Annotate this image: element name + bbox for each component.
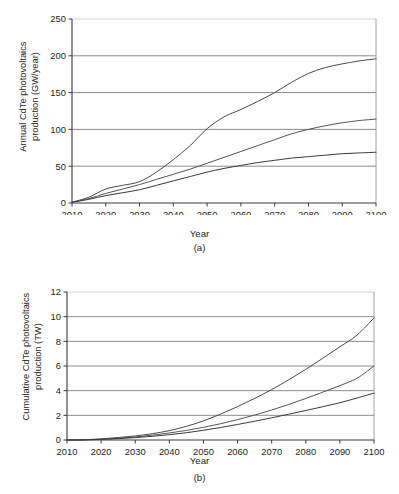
svg-text:2090: 2090 bbox=[332, 209, 353, 216]
svg-text:2060: 2060 bbox=[230, 209, 251, 216]
svg-text:2020: 2020 bbox=[95, 209, 116, 216]
svg-text:2030: 2030 bbox=[129, 209, 150, 216]
series-line bbox=[72, 152, 376, 202]
svg-text:0: 0 bbox=[56, 434, 61, 445]
svg-text:2100: 2100 bbox=[366, 209, 387, 216]
panel-b-plot: 0246810122010202020302040205020602070208… bbox=[0, 265, 399, 460]
svg-text:200: 200 bbox=[50, 50, 66, 61]
series-line bbox=[72, 119, 376, 202]
series-line bbox=[72, 59, 376, 203]
svg-text:100: 100 bbox=[50, 124, 66, 135]
svg-text:50: 50 bbox=[56, 161, 66, 172]
panel-b-caption: (b) bbox=[0, 472, 399, 483]
svg-text:2010: 2010 bbox=[62, 209, 83, 216]
svg-text:0: 0 bbox=[61, 197, 66, 208]
svg-text:12: 12 bbox=[51, 286, 61, 297]
series-line bbox=[67, 393, 374, 440]
panel-a-x-axis-label: Year bbox=[0, 228, 399, 239]
panel-a: Annual CdTe photovoltaics production (GW… bbox=[0, 0, 399, 250]
panel-b: Cumulative CdTe photovoltaics production… bbox=[0, 250, 399, 494]
svg-text:250: 250 bbox=[50, 13, 66, 24]
svg-text:2: 2 bbox=[56, 410, 61, 421]
panel-b-x-axis-label: Year bbox=[0, 455, 399, 466]
svg-text:10: 10 bbox=[51, 311, 61, 322]
svg-text:4: 4 bbox=[56, 385, 61, 396]
svg-text:2050: 2050 bbox=[197, 209, 218, 216]
series-line bbox=[67, 318, 374, 440]
svg-text:2080: 2080 bbox=[298, 209, 319, 216]
svg-text:2070: 2070 bbox=[264, 209, 285, 216]
svg-text:8: 8 bbox=[56, 336, 61, 347]
figure-two-panel-cdte-production: Annual CdTe photovoltaics production (GW… bbox=[0, 0, 399, 494]
svg-text:6: 6 bbox=[56, 360, 61, 371]
panel-a-plot: 0501001502002502010202020302040205020602… bbox=[0, 0, 399, 215]
svg-text:150: 150 bbox=[50, 87, 66, 98]
svg-text:2040: 2040 bbox=[163, 209, 184, 216]
series-line bbox=[67, 366, 374, 440]
